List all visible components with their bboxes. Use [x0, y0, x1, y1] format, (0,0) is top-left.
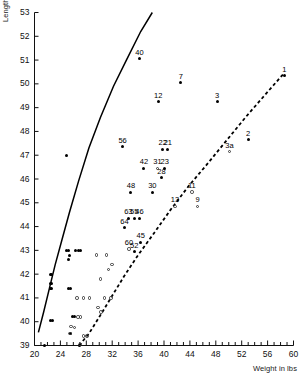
- data-point-label: 12: [151, 92, 165, 100]
- data-point-filled: [65, 154, 68, 157]
- x-tick-label: 36: [130, 349, 146, 359]
- x-tick-label: 20: [27, 349, 43, 359]
- data-point-filled: [157, 100, 160, 103]
- data-point-filled: [160, 176, 163, 179]
- data-point-label: 60: [122, 239, 136, 247]
- data-point-filled: [283, 74, 286, 77]
- y-axis-title: Length in inches: [1, 10, 10, 22]
- x-tick-label: 60: [286, 349, 302, 359]
- data-point-open: [228, 150, 232, 154]
- data-point-label: 3a: [222, 142, 236, 150]
- data-point-filled: [121, 145, 124, 148]
- x-tick-label: 40: [156, 349, 172, 359]
- y-tick-label: 43: [20, 245, 29, 255]
- data-point-filled: [161, 148, 164, 151]
- y-tick-label: 52: [20, 31, 29, 41]
- data-point-open: [75, 296, 79, 300]
- x-tick-label: 28: [78, 349, 94, 359]
- data-point-label: 40: [132, 49, 146, 57]
- x-tick-label: 32: [104, 349, 120, 359]
- y-tick-label: 53: [20, 7, 29, 17]
- data-point-filled: [138, 57, 141, 60]
- data-point-label: 1: [277, 66, 291, 74]
- data-point-open: [99, 310, 103, 314]
- data-point-open: [107, 268, 111, 272]
- x-axis-title: Weight in lbs: [253, 364, 297, 373]
- data-point-open: [103, 296, 107, 300]
- x-tick-label: 52: [234, 349, 250, 359]
- data-point-filled: [67, 249, 70, 252]
- data-point-open: [105, 253, 109, 257]
- y-tick-label: 40: [20, 316, 29, 326]
- data-point-label: 48: [124, 182, 138, 190]
- data-point-filled: [179, 81, 182, 84]
- x-tick-label: 24: [52, 349, 68, 359]
- data-point-label: 2: [241, 130, 255, 138]
- data-point-filled: [50, 273, 53, 276]
- data-point-open: [82, 296, 86, 300]
- x-tick-label: 56: [260, 349, 276, 359]
- y-tick-label: 51: [20, 55, 29, 65]
- data-point-open: [88, 296, 92, 300]
- data-point-open: [110, 263, 114, 267]
- data-point-label: 64: [118, 218, 132, 226]
- data-point-filled: [129, 191, 132, 194]
- data-point-open: [73, 326, 77, 330]
- data-point-filled: [216, 100, 219, 103]
- data-point-open: [173, 205, 177, 209]
- x-tick-label: 44: [182, 349, 198, 359]
- y-tick-label: 50: [20, 78, 29, 88]
- y-tick-label: 47: [20, 150, 29, 160]
- data-point-filled: [138, 217, 141, 220]
- data-point-label: 28: [154, 168, 168, 176]
- data-point-filled: [50, 287, 53, 290]
- data-point-label: 31: [151, 158, 165, 166]
- data-point-label: 56: [116, 137, 130, 145]
- data-point-filled: [142, 167, 145, 170]
- data-point-filled: [69, 287, 72, 290]
- y-tick-label: 44: [20, 221, 29, 231]
- data-point-filled: [43, 344, 46, 347]
- data-point-label: 3: [210, 92, 224, 100]
- data-point-label: 7: [174, 73, 188, 81]
- y-tick-label: 49: [20, 102, 29, 112]
- data-point-filled: [67, 258, 70, 261]
- data-point-label: 21: [161, 139, 175, 147]
- data-point-open: [69, 325, 73, 329]
- y-tick-label: 45: [20, 197, 29, 207]
- lower-dashed-curve: [79, 74, 283, 345]
- data-point-open: [79, 315, 83, 319]
- data-point-open: [95, 253, 99, 257]
- data-point-open: [190, 190, 194, 194]
- data-point-label: 30: [145, 182, 159, 190]
- upper-solid-curve: [38, 13, 152, 333]
- data-point-label: 42: [137, 158, 151, 166]
- data-point-open: [109, 296, 113, 300]
- data-point-filled: [51, 319, 54, 322]
- y-tick-label: 46: [20, 174, 29, 184]
- data-point-filled: [133, 250, 136, 253]
- data-point-filled: [123, 226, 126, 229]
- data-point-label: 11: [185, 182, 199, 190]
- data-point-open: [78, 343, 82, 347]
- x-tick-label: 48: [208, 349, 224, 359]
- data-point-filled: [68, 254, 71, 257]
- y-tick-label: 41: [20, 292, 29, 302]
- data-point-filled: [247, 138, 250, 141]
- data-point-open: [196, 205, 200, 209]
- data-point-filled: [79, 249, 82, 252]
- data-point-open: [99, 277, 103, 281]
- data-point-open: [68, 332, 72, 336]
- data-point-filled: [166, 148, 169, 151]
- data-point-filled: [50, 282, 53, 285]
- data-point-open: [85, 334, 89, 338]
- y-tick-label: 48: [20, 126, 29, 136]
- data-point-filled: [133, 217, 136, 220]
- scatter-chart: Length in inches Weight in lbs 394041424…: [0, 0, 301, 375]
- data-point-label: 13: [168, 196, 182, 204]
- data-point-open: [96, 306, 100, 310]
- data-point-label: 55: [127, 208, 141, 216]
- data-point-filled: [151, 191, 154, 194]
- y-tick-label: 42: [20, 269, 29, 279]
- data-point-label: 9: [191, 196, 205, 204]
